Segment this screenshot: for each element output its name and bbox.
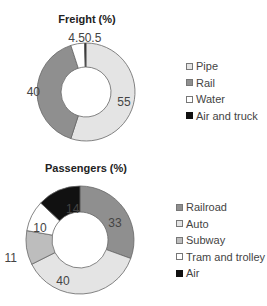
legend-swatch-icon (186, 79, 193, 86)
passengers-data-label: 11 (5, 251, 18, 265)
legend-swatch-icon (176, 220, 183, 227)
legend-label: Rail (196, 77, 215, 89)
passengers-data-label: 33 (108, 216, 122, 230)
legend-swatch-icon (186, 96, 193, 103)
legend-swatch-icon (186, 63, 193, 70)
legend-label: Air (186, 267, 199, 279)
passengers-legend-item: Auto (176, 216, 265, 232)
passengers-legend-item: Subway (176, 232, 265, 248)
legend-swatch-icon (176, 253, 183, 260)
passengers-legend-item: Tram and trolley (176, 249, 265, 265)
freight-legend-item: Water (186, 91, 258, 107)
legend-swatch-icon (176, 270, 183, 277)
legend-swatch-icon (186, 112, 193, 119)
legend-label: Water (196, 93, 225, 105)
legend-swatch-icon (176, 204, 183, 211)
freight-legend: PipeRailWaterAir and truck (186, 58, 258, 124)
passengers-legend-item: Air (176, 265, 265, 281)
passengers-data-label: 40 (56, 274, 70, 288)
freight-data-label: 40 (27, 85, 41, 99)
legend-label: Tram and trolley (186, 251, 265, 263)
legend-label: Air and truck (196, 110, 258, 122)
passengers-slice-railroad (80, 186, 134, 258)
passengers-legend-item: Railroad (176, 199, 265, 215)
freight-data-label: 0.5 (85, 31, 102, 45)
passengers-legend: RailroadAutoSubwayTram and trolleyAir (176, 199, 265, 282)
freight-data-label: 55 (117, 95, 131, 109)
passengers-chart-title: Passengers (%) (36, 162, 136, 174)
freight-legend-item: Rail (186, 75, 258, 91)
legend-label: Railroad (186, 201, 227, 213)
legend-swatch-icon (176, 237, 183, 244)
passengers-data-label: 10 (33, 221, 47, 235)
freight-legend-item: Air and truck (186, 108, 258, 124)
legend-label: Subway (186, 234, 225, 246)
freight-data-label: 4.5 (68, 31, 85, 45)
freight-legend-item: Pipe (186, 58, 258, 74)
legend-label: Pipe (196, 60, 218, 72)
passengers-data-label: 14 (66, 202, 80, 216)
legend-label: Auto (186, 218, 209, 230)
freight-slice-rail (37, 45, 78, 138)
